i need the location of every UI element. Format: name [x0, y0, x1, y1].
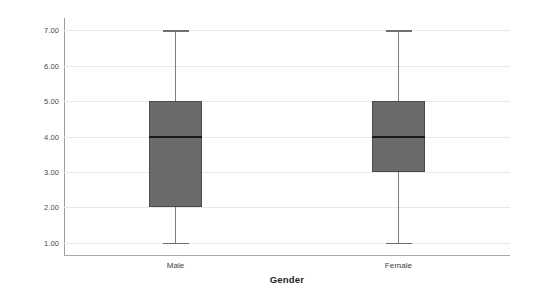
box-rect	[149, 101, 202, 207]
gridline	[64, 101, 510, 102]
category-label-female: Female	[385, 261, 412, 270]
median-line	[149, 136, 202, 138]
y-tick-label: 3.00	[44, 167, 59, 176]
lower-whisker-cap	[163, 243, 189, 245]
y-tick-label: 6.00	[44, 61, 59, 70]
y-tick-label: 4.00	[44, 132, 59, 141]
lower-whisker-cap	[386, 243, 412, 245]
gridline	[64, 30, 510, 31]
x-axis-line	[64, 255, 510, 256]
y-tick-label: 7.00	[44, 26, 59, 35]
category-label-male: Male	[167, 261, 185, 270]
upper-whisker-line	[398, 30, 399, 101]
upper-whisker-line	[175, 30, 176, 101]
box-male	[149, 18, 202, 255]
lower-whisker-line	[398, 172, 399, 243]
boxplot-chart: Purchase 7.006.005.004.003.002.001.00 Ma…	[0, 0, 534, 294]
y-tick-label: 2.00	[44, 203, 59, 212]
upper-whisker-cap	[386, 30, 412, 32]
gridline	[64, 172, 510, 173]
gridline	[64, 207, 510, 208]
y-tick-label: 5.00	[44, 97, 59, 106]
median-line	[372, 136, 425, 138]
gridline	[64, 243, 510, 244]
y-tick-label: 1.00	[44, 238, 59, 247]
x-axis-title: Gender	[64, 274, 510, 285]
gridline	[64, 66, 510, 67]
plot-area: 7.006.005.004.003.002.001.00	[64, 18, 510, 255]
gridline	[64, 137, 510, 138]
lower-whisker-line	[175, 207, 176, 242]
upper-whisker-cap	[163, 30, 189, 32]
box-female	[372, 18, 425, 255]
